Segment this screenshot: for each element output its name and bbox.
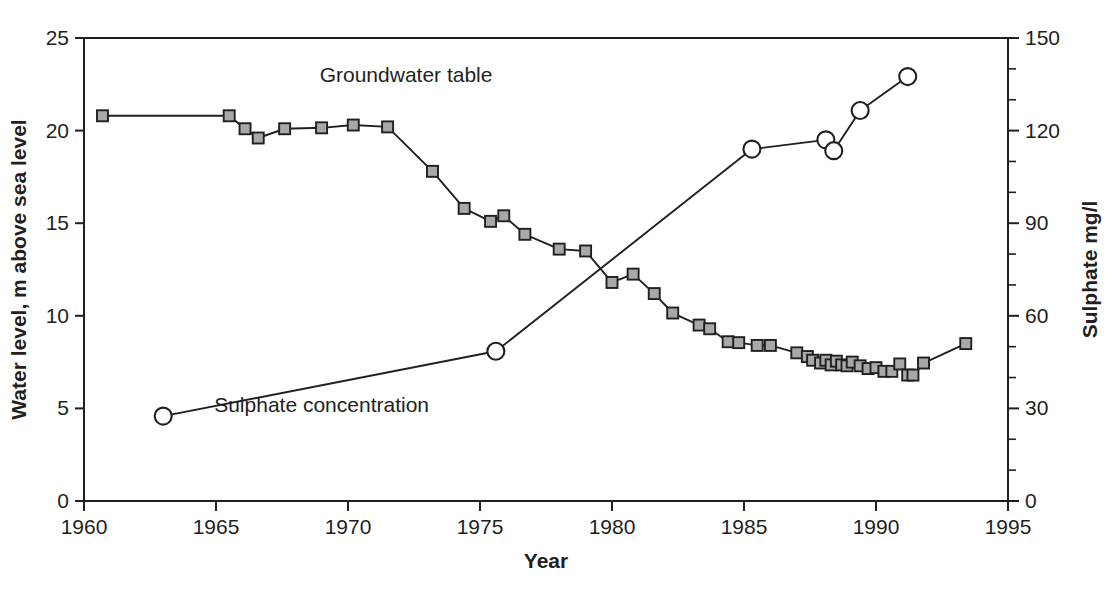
groundwater-data-point [427, 166, 438, 177]
groundwater-data-point [894, 358, 905, 369]
groundwater-data-point [498, 210, 509, 221]
right-axis-ticklabels: 0306090120150 [1025, 26, 1060, 512]
bottom-ticklabel: 1970 [325, 515, 372, 538]
right-ticklabel: 120 [1025, 119, 1060, 142]
groundwater-data-point [97, 110, 108, 121]
right-ticklabel: 0 [1025, 489, 1037, 512]
left-ticklabel: 25 [46, 26, 69, 49]
sulphate-data-point [825, 142, 842, 159]
bottom-axis-ticks [84, 501, 1008, 511]
left-ticklabel: 0 [57, 489, 69, 512]
groundwater-data-point [240, 123, 251, 134]
right-ticklabel: 60 [1025, 304, 1048, 327]
bottom-ticklabel: 1965 [193, 515, 240, 538]
groundwater-data-point [519, 229, 530, 240]
groundwater-data-point [649, 288, 660, 299]
sulphate-data-point [743, 141, 760, 158]
bottom-ticklabel: 1985 [721, 515, 768, 538]
bottom-ticklabel: 1975 [457, 515, 504, 538]
sulphate-data-point [155, 408, 172, 425]
y-axis-title-right: Sulphate mg/l [1078, 201, 1101, 339]
groundwater-data-point [253, 133, 264, 144]
right-axis-ticks [1008, 38, 1019, 501]
groundwater-data-point [607, 277, 618, 288]
chart-container: 0510152025 0306090120150 196019651970197… [0, 0, 1116, 589]
sulphate-data-point [852, 102, 869, 119]
bottom-ticklabel: 1990 [853, 515, 900, 538]
left-ticklabel: 15 [46, 211, 69, 234]
groundwater-data-point [279, 123, 290, 134]
sulphate-polyline [163, 77, 907, 417]
bottom-ticklabel: 1995 [985, 515, 1032, 538]
groundwater-data-point [554, 244, 565, 255]
right-ticklabel: 90 [1025, 211, 1048, 234]
groundwater-data-point [580, 245, 591, 256]
y-axis-title-left: Water level, m above sea level [7, 119, 30, 419]
sulphate-data-point [487, 343, 504, 360]
groundwater-data-point [667, 308, 678, 319]
left-ticklabel: 5 [57, 396, 69, 419]
groundwater-data-point [316, 122, 327, 133]
left-ticklabel: 20 [46, 119, 69, 142]
groundwater-data-point [791, 347, 802, 358]
groundwater-data-point [765, 340, 776, 351]
plot-frame [84, 38, 1008, 501]
x-axis-title: Year [524, 549, 568, 572]
bottom-ticklabel: 1960 [61, 515, 108, 538]
left-ticklabel: 10 [46, 304, 69, 327]
right-ticklabel: 150 [1025, 26, 1060, 49]
bottom-ticklabel: 1980 [589, 515, 636, 538]
groundwater-data-point [918, 358, 929, 369]
groundwater-data-point [733, 337, 744, 348]
groundwater-data-point [628, 269, 639, 280]
bottom-axis-ticklabels: 19601965197019751980198519901995 [61, 515, 1032, 538]
groundwater-data-point [723, 336, 734, 347]
groundwater-data-point [348, 120, 359, 131]
groundwater-data-point [694, 320, 705, 331]
left-axis-ticklabels: 0510152025 [46, 26, 69, 512]
right-ticklabel: 30 [1025, 396, 1048, 419]
groundwater-data-point [382, 121, 393, 132]
groundwater-data-point [960, 338, 971, 349]
series-sulphate-concentration [155, 68, 916, 425]
sulphate-series-label: Sulphate concentration [214, 393, 429, 416]
groundwater-data-point [485, 216, 496, 227]
groundwater-series-label: Groundwater table [320, 63, 493, 86]
groundwater-data-point [704, 323, 715, 334]
groundwater-data-point [752, 340, 763, 351]
left-axis-ticks [75, 38, 84, 501]
line-chart: 0510152025 0306090120150 196019651970197… [0, 0, 1116, 589]
sulphate-data-point [899, 68, 916, 85]
groundwater-data-point [459, 203, 470, 214]
groundwater-data-point [907, 370, 918, 381]
groundwater-data-point [224, 110, 235, 121]
